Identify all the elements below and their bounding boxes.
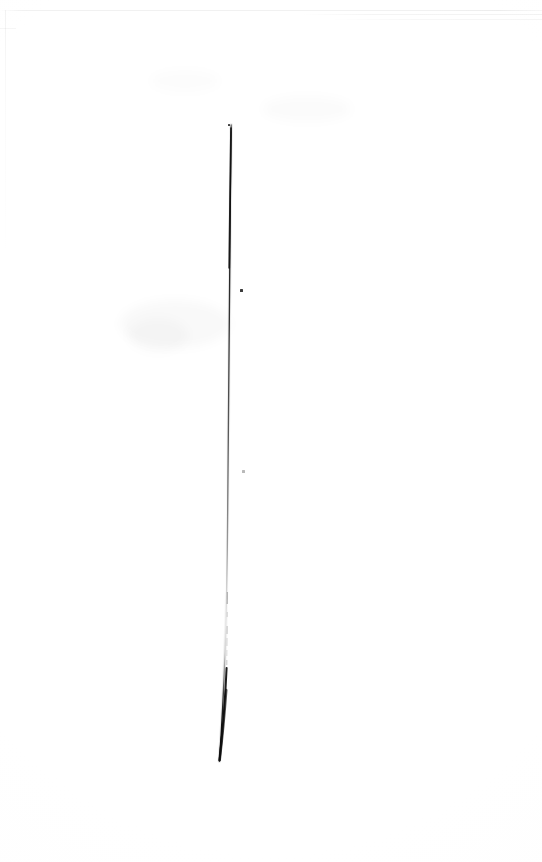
smudge-upper-left: [150, 70, 220, 92]
smudge-left-mid: [120, 300, 230, 348]
page-background: [0, 0, 542, 862]
smudge-upper-right: [262, 96, 352, 122]
page-edge-top-tertiary: [330, 19, 542, 20]
page-edge-left: [5, 10, 6, 742]
smudge-left-mid-2: [128, 318, 188, 352]
speck-upper: [240, 289, 243, 292]
scanned-page: [0, 0, 542, 862]
page-edge-left-cap: [0, 28, 16, 29]
speck-mid: [242, 470, 245, 473]
vertical-rule-layer: [0, 0, 542, 862]
page-edge-top: [0, 10, 542, 11]
page-edge-top-secondary: [300, 14, 542, 15]
speck-top-right: [228, 124, 230, 126]
